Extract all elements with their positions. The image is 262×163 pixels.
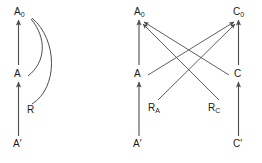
node-label-A0-left: A0	[14, 7, 25, 18]
node-subscript: 0	[21, 11, 25, 18]
node-prime: ′	[140, 138, 142, 149]
node-label-C0-right: C0	[233, 7, 244, 18]
node-base: A	[134, 68, 141, 79]
node-label-Aprime-right: A′	[133, 139, 142, 149]
node-base: R	[27, 104, 34, 115]
node-base: A	[14, 68, 21, 79]
diagram-canvas	[0, 0, 262, 163]
node-subscript: 0	[240, 11, 244, 18]
diagram-figure: A0 A R A′ A0 C0 A C RA RC A′ C′	[0, 0, 262, 163]
node-label-A-right: A	[134, 69, 141, 79]
node-base: C	[234, 68, 241, 79]
node-label-Aprime-left: A′	[13, 139, 22, 149]
node-base: A	[13, 138, 20, 149]
node-label-RA: RA	[148, 103, 160, 114]
right-panel-edges	[139, 20, 239, 136]
node-base: A	[14, 6, 21, 17]
left-panel-edges	[19, 18, 52, 136]
node-label-A-left: A	[14, 69, 21, 79]
node-prime: ′	[240, 138, 242, 149]
node-base: A	[134, 6, 141, 17]
node-label-Cprime-right: C′	[233, 139, 242, 149]
node-label-A0-right: A0	[134, 7, 145, 18]
node-prime: ′	[20, 138, 22, 149]
node-base: A	[133, 138, 140, 149]
node-label-R-left: R	[27, 105, 34, 115]
node-label-C-right: C	[234, 69, 241, 79]
edge-R-to-A0-curve-left	[32, 18, 52, 104]
node-subscript: 0	[141, 11, 145, 18]
node-subscript: A	[155, 107, 160, 114]
node-label-RC: RC	[208, 103, 220, 114]
node-subscript: C	[215, 107, 220, 114]
